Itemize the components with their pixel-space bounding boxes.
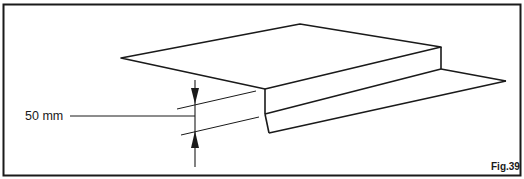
step-diagram: 50 mm Fig.39 xyxy=(0,0,524,179)
step-drawing xyxy=(121,24,506,133)
arrow-up-icon xyxy=(191,131,199,148)
dimension-label: 50 mm xyxy=(25,109,63,123)
lower-slab-back-edge xyxy=(441,69,506,81)
riser-bottom-edge xyxy=(265,69,441,114)
upper-slab-top xyxy=(121,24,441,89)
figure-label: Fig.39 xyxy=(491,161,520,172)
extension-line-top xyxy=(177,91,256,109)
lower-slab-front-edge xyxy=(269,81,506,133)
figure-frame xyxy=(4,5,521,176)
arrow-down-icon xyxy=(191,88,199,104)
dimension-annotation xyxy=(70,80,259,167)
lower-slab-left-edge xyxy=(265,114,269,133)
extension-line-bottom xyxy=(181,117,259,135)
